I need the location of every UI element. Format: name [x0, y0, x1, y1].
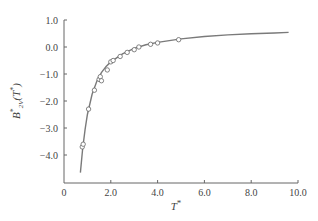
x-tick-label: 2.0	[105, 187, 118, 198]
x-tick-label: 6.0	[198, 187, 211, 198]
data-point-marker	[86, 107, 90, 111]
data-point-marker	[176, 38, 180, 42]
data-point-marker	[155, 41, 159, 45]
plot-lines	[80, 32, 289, 172]
x-tick-label: 8.0	[245, 187, 258, 198]
x-axis-title: T*	[171, 198, 182, 212]
virial-coefficient-chart: 02.04.06.08.010.0 1.00.0−1.0−2.0−3.0−4.0…	[0, 0, 318, 221]
y-tick-label: −1.0	[40, 69, 58, 80]
x-tick-label: 10.0	[289, 187, 307, 198]
x-tick-label: 4.0	[151, 187, 164, 198]
data-point-marker	[81, 142, 85, 146]
data-point-marker	[132, 48, 136, 52]
theory-curve	[80, 32, 288, 172]
x-tick-label: 0	[62, 187, 67, 198]
data-point-marker	[105, 68, 109, 72]
y-ticks: 1.00.0−1.0−2.0−3.0−4.0	[40, 15, 67, 161]
y-tick-label: 1.0	[46, 15, 59, 26]
y-tick-label: −4.0	[40, 150, 58, 161]
data-point-marker	[137, 45, 141, 49]
y-tick-label: −2.0	[40, 96, 58, 107]
data-point-marker	[111, 58, 115, 62]
y-tick-label: 0.0	[46, 42, 59, 53]
data-point-marker	[92, 88, 96, 92]
data-markers	[80, 38, 181, 150]
data-point-marker	[118, 54, 122, 58]
data-point-marker	[148, 42, 152, 46]
y-axis-title: B*2V(T*)	[9, 83, 25, 119]
data-point-marker	[99, 79, 103, 83]
data-point-marker	[125, 50, 129, 54]
axes: 02.04.06.08.010.0 1.00.0−1.0−2.0−3.0−4.0	[40, 15, 307, 199]
y-tick-label: −3.0	[40, 123, 58, 134]
